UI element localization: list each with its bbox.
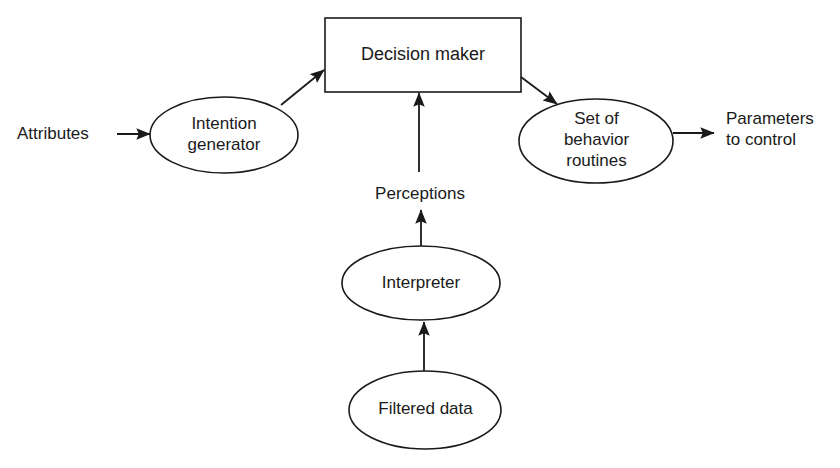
node-filtered-data xyxy=(349,371,501,449)
node-intention-generator xyxy=(150,97,298,173)
node-behavior-routines xyxy=(519,99,673,183)
edge-decision-maker-to-behavior-routines xyxy=(521,77,557,104)
diagram-svg xyxy=(0,0,840,468)
edge-intention-generator-to-decision-maker xyxy=(281,70,324,105)
node-decision-maker xyxy=(325,18,521,92)
diagram-canvas: Decision maker Intention generator Set o… xyxy=(0,0,840,468)
node-interpreter xyxy=(342,246,500,320)
